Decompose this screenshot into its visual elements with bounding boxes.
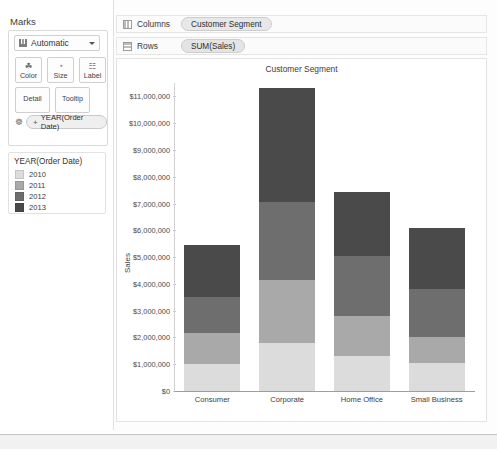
color-palette-icon: ☘ xyxy=(25,62,33,71)
x-axis-label[interactable]: Consumer xyxy=(175,395,250,404)
size-icon: ◔ xyxy=(58,62,63,71)
legend-item[interactable]: 2013 xyxy=(15,202,105,212)
y-axis-tick-label: $10,000,000 xyxy=(129,119,174,128)
columns-pill[interactable]: Customer Segment xyxy=(181,17,272,31)
bar-slot xyxy=(175,83,250,391)
bar-series-group xyxy=(175,83,474,391)
marks-card-title: Marks xyxy=(10,16,36,27)
marks-field-pill-label: YEAR(Order Date) xyxy=(41,113,100,131)
bar-segment[interactable] xyxy=(409,228,465,290)
bar-segment[interactable] xyxy=(184,364,240,391)
panel-divider xyxy=(113,0,114,430)
tooltip-button[interactable]: Tooltip xyxy=(55,87,90,113)
size-button-label: Size xyxy=(54,72,68,80)
rows-pill[interactable]: SUM(Sales) xyxy=(181,39,245,53)
left-panel: Marks Automatic ☘ Color ◔ Size ☷ Label xyxy=(0,0,113,430)
x-axis-label[interactable]: Home Office xyxy=(325,395,400,404)
y-axis-tick-label: $3,000,000 xyxy=(133,306,174,315)
bar-segment[interactable] xyxy=(409,363,465,391)
legend-item[interactable]: 2010 xyxy=(15,169,105,179)
bar-segment[interactable] xyxy=(184,333,240,364)
y-axis-tick-label: $11,000,000 xyxy=(129,92,174,101)
marks-button-row-2: Detail Tooltip xyxy=(15,87,90,113)
label-icon: ☷ xyxy=(89,62,97,71)
marks-button-row-1: ☘ Color ◔ Size ☷ Label xyxy=(15,57,106,83)
y-axis-tick-label: $1,000,000 xyxy=(133,360,174,369)
x-axis-label[interactable]: Corporate xyxy=(250,395,325,404)
legend-swatch xyxy=(15,181,24,190)
legend-item-label: 2011 xyxy=(29,181,45,190)
color-palette-icon: ☸ xyxy=(15,117,23,127)
x-axis-labels: ConsumerCorporateHome OfficeSmall Busine… xyxy=(175,395,474,404)
legend-item-label: 2013 xyxy=(29,203,46,212)
columns-shelf-label: Columns xyxy=(137,19,181,29)
bar-slot xyxy=(399,83,474,391)
rows-icon xyxy=(123,42,132,51)
bar-segment[interactable] xyxy=(184,245,240,297)
bar-segment[interactable] xyxy=(334,192,390,256)
y-axis-tick-label: $5,000,000 xyxy=(133,253,174,262)
color-legend: YEAR(Order Date) 2010 2011 2012 2013 xyxy=(8,152,106,214)
chart-title: Customer Segment xyxy=(117,64,486,74)
mark-type-dropdown[interactable]: Automatic xyxy=(14,35,100,51)
mark-type-label: Automatic xyxy=(31,38,85,48)
expand-plus-icon[interactable]: + xyxy=(33,118,38,127)
y-axis-tick-label: $2,000,000 xyxy=(133,333,174,342)
rows-shelf-label: Rows xyxy=(137,41,181,51)
legend-item-label: 2010 xyxy=(29,170,46,179)
bar-segment[interactable] xyxy=(259,280,315,343)
bar-segment[interactable] xyxy=(334,316,390,356)
y-axis-tick-label: $8,000,000 xyxy=(133,172,174,181)
bar-segment[interactable] xyxy=(184,297,240,333)
y-axis-tick-label: $7,000,000 xyxy=(133,199,174,208)
legend-item[interactable]: 2011 xyxy=(15,180,105,190)
stacked-bar[interactable] xyxy=(259,88,315,391)
legend-item-label: 2012 xyxy=(29,192,46,201)
bar-segment[interactable] xyxy=(334,356,390,391)
rows-shelf[interactable]: Rows SUM(Sales) xyxy=(116,37,487,55)
bar-segment[interactable] xyxy=(259,88,315,202)
bar-segment[interactable] xyxy=(259,343,315,391)
label-button[interactable]: ☷ Label xyxy=(79,57,106,83)
y-axis-tick-label: $9,000,000 xyxy=(133,145,174,154)
legend-title: YEAR(Order Date) xyxy=(14,157,105,166)
marks-field-pill[interactable]: + YEAR(Order Date) xyxy=(26,115,107,129)
chevron-down-icon[interactable] xyxy=(89,42,95,45)
color-button-label: Color xyxy=(20,72,37,80)
marks-field-row: ☸ + YEAR(Order Date) xyxy=(15,115,107,129)
tooltip-button-label: Tooltip xyxy=(62,95,83,103)
bar-slot xyxy=(250,83,325,391)
bar-slot xyxy=(325,83,400,391)
stacked-bar[interactable] xyxy=(334,192,390,392)
y-axis-tick-label: $6,000,000 xyxy=(133,226,174,235)
bar-segment[interactable] xyxy=(334,256,390,316)
bar-segment[interactable] xyxy=(409,337,465,362)
chart-card: Customer Segment Sales $0$1,000,000$2,00… xyxy=(116,58,487,422)
status-bar xyxy=(0,434,497,449)
y-axis-tick-label: $4,000,000 xyxy=(133,279,174,288)
detail-button-label: Detail xyxy=(23,95,41,103)
legend-swatch xyxy=(15,192,24,201)
columns-shelf[interactable]: Columns Customer Segment xyxy=(116,15,487,33)
stacked-bar[interactable] xyxy=(409,228,465,391)
marks-card: Automatic ☘ Color ◔ Size ☷ Label xyxy=(8,30,108,146)
stacked-bar[interactable] xyxy=(184,245,240,391)
bar-segment[interactable] xyxy=(259,202,315,280)
legend-swatch xyxy=(15,170,24,179)
x-axis-label[interactable]: Small Business xyxy=(399,395,474,404)
size-button[interactable]: ◔ Size xyxy=(47,57,74,83)
legend-swatch xyxy=(15,203,24,212)
bar-segment[interactable] xyxy=(409,289,465,337)
legend-item[interactable]: 2012 xyxy=(15,191,105,201)
bar-chart-icon xyxy=(19,39,27,47)
label-button-label: Label xyxy=(84,72,102,80)
y-axis-ticks: $0$1,000,000$2,000,000$3,000,000$4,000,0… xyxy=(117,83,174,391)
detail-button[interactable]: Detail xyxy=(15,87,50,113)
color-button[interactable]: ☘ Color xyxy=(15,57,42,83)
columns-icon xyxy=(123,20,132,29)
